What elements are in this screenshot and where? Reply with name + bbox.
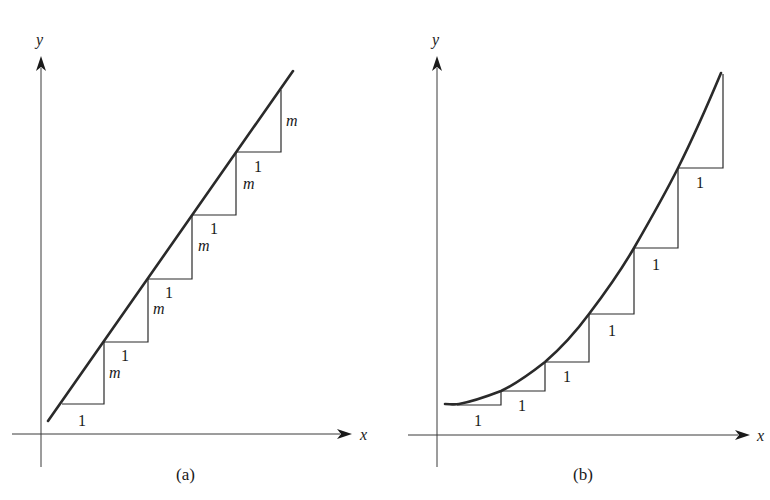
y-axis-label: y [34, 31, 44, 49]
panel-b: y x 1 1 1 1 1 1 (b) [408, 31, 764, 484]
run-label: 1 [563, 368, 571, 385]
caption-a: (a) [176, 465, 195, 484]
x-axis-label: x [359, 426, 367, 443]
caption-b: (b) [573, 465, 593, 484]
run-label: 1 [652, 256, 660, 273]
rise-label: m [286, 112, 298, 129]
convex-curve [445, 73, 721, 404]
rise-label: m [243, 175, 255, 192]
run-label: 1 [121, 347, 129, 364]
run-label: 1 [78, 412, 86, 429]
run-label: 1 [254, 158, 262, 175]
run-label: 1 [210, 220, 218, 237]
run-label: 1 [696, 174, 704, 191]
panel-a: y x 1 1 1 1 1 m m m m m (a) [12, 31, 367, 484]
linear-graph [48, 71, 293, 421]
y-axis-label: y [430, 31, 440, 49]
figure: y x 1 1 1 1 1 m m m m m (a) y [0, 0, 770, 500]
run-label: 1 [165, 284, 173, 301]
run-label: 1 [474, 412, 482, 429]
rise-label: m [153, 300, 165, 317]
run-label: 1 [518, 397, 526, 414]
run-label: 1 [608, 322, 616, 339]
rise-label: m [198, 237, 210, 254]
rise-label: m [109, 364, 121, 381]
x-axis-label: x [756, 427, 764, 444]
